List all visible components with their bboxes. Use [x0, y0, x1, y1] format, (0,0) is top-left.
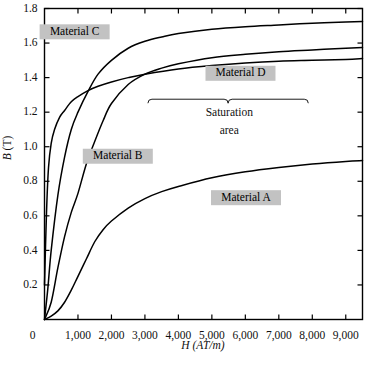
curve-material-d — [45, 59, 363, 285]
x-tick-label: 6,000 — [232, 329, 258, 342]
x-axis-title: H (AT/m) — [180, 339, 225, 352]
saturation-brace — [148, 99, 308, 103]
series-label-text: Material C — [50, 25, 100, 37]
y-tick-label: 1.2 — [23, 105, 38, 117]
x-tick-label: 2,000 — [99, 329, 125, 342]
series-label-text: Material B — [93, 149, 143, 161]
series-label-text: Material A — [221, 191, 271, 203]
series-label-material-c: Material C — [40, 24, 110, 39]
x-tick-label: 7,000 — [266, 329, 292, 342]
chart-canvas: 0.20.40.60.81.01.21.41.61.8 01,0002,0003… — [0, 0, 390, 369]
bh-curve-chart: 0.20.40.60.81.01.21.41.61.8 01,0002,0003… — [0, 0, 390, 369]
curve-material-a — [45, 161, 363, 320]
x-tick-label: 9,000 — [333, 329, 359, 342]
y-tick-label: 0.6 — [23, 209, 38, 221]
x-tick-label: 3,000 — [132, 329, 158, 342]
y-tick-label: 0.8 — [23, 174, 38, 186]
x-tick-label: 1,000 — [65, 329, 91, 342]
saturation-annotation-text: Saturationarea — [206, 106, 254, 135]
y-tick-label: 0.4 — [23, 244, 38, 256]
saturation-text-line-2: area — [220, 124, 239, 136]
series-label-text: Material D — [215, 66, 265, 78]
saturation-text-line-1: Saturation — [206, 106, 254, 118]
y-tick-label: 0.2 — [23, 278, 38, 290]
series-label-material-d: Material D — [205, 66, 275, 81]
y-axis-title: B (T) — [1, 136, 14, 161]
y-tick-label: 1.6 — [23, 36, 38, 48]
y-tick-label: 1.4 — [23, 71, 38, 83]
curve-series-group — [45, 21, 363, 319]
series-label-material-b: Material B — [83, 149, 153, 164]
y-tick-label: 1.0 — [23, 140, 38, 152]
x-tick-label: 0 — [30, 329, 36, 341]
y-tick-label: 1.8 — [23, 2, 38, 14]
x-tick-label: 8,000 — [299, 329, 325, 342]
y-axis-tick-labels: 0.20.40.60.81.01.21.41.61.8 — [23, 2, 38, 290]
brace-path — [148, 99, 308, 103]
series-label-material-a: Material A — [211, 190, 281, 205]
